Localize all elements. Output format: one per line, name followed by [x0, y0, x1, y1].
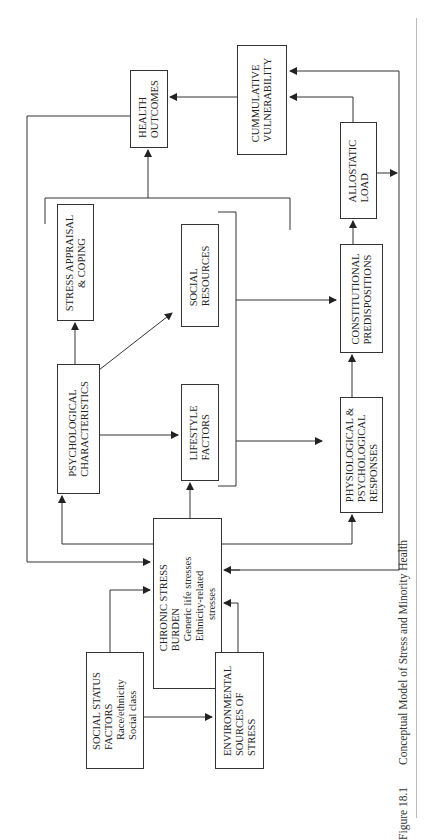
social-resources-label: SOCIAL: [188, 245, 200, 306]
arrow-allostatic-to-vulnerability: [290, 97, 353, 122]
chronic-stress-burden-label: CHRONIC STRESS: [158, 556, 170, 651]
figure-caption: Figure 18.1Conceptual Model of Stress an…: [397, 540, 409, 840]
stress-appraisal-box: STRESS APPRAISAL& COPING: [57, 204, 94, 321]
cumulative-vulnerability-label-2: VULNERABILITY: [262, 58, 274, 143]
physiological-responses-label-3: RESPONSES: [368, 408, 380, 502]
social-class-item: Social class: [127, 672, 139, 750]
allostatic-load-box: ALLOSTATICLOAD: [340, 122, 377, 219]
environmental-sources-label: ENVIRONMENTAL: [222, 665, 234, 755]
chronic-stress-burden-box: CHRONIC STRESS BURDEN Generic life stres…: [153, 518, 222, 689]
social-status-factors-label: SOCIAL STATUS: [91, 672, 103, 750]
constitutional-predispositions-label: CONSTITUTIONAL: [350, 253, 362, 344]
psychological-characteristics-label-2: CHARACTERISTICS: [79, 381, 91, 477]
constitutional-predispositions-label-2: PREDISPOSITIONS: [362, 253, 374, 344]
figure-title: Conceptual Model of Stress and Minority …: [397, 540, 409, 765]
allostatic-load-label-2: LOAD: [359, 139, 371, 202]
arrow-stress-to-physiological: [221, 515, 352, 544]
physiological-responses-box: PHYSIOLOGICAL &PSYCHOLOGICALRESPONSES: [340, 397, 383, 513]
stress-appraisal-label-2: & COPING: [76, 214, 88, 311]
lifestyle-factors-label-2: FACTORS: [200, 405, 212, 460]
arrow-stress-to-psych: [62, 496, 153, 544]
environmental-sources-label-3: STRESS: [246, 665, 258, 755]
psychological-characteristics-box: PSYCHOLOGICALCHARACTERISTICS: [57, 364, 100, 494]
constitutional-predispositions-box: CONSTITUTIONALPREDISPOSITIONS: [340, 244, 383, 353]
environmental-sources-label-2: SOURCES OF: [234, 665, 246, 755]
race-ethnicity-item: Race/ethnicity: [115, 672, 127, 750]
allostatic-load-label: ALLOSTATIC: [347, 139, 359, 202]
health-outcomes-box: HEALTHOUTCOMES: [130, 70, 168, 148]
arrow-health-feedback-to-stress: [27, 116, 150, 562]
social-resources-label-2: RESOURCES: [200, 245, 212, 306]
health-outcomes-label-2: OUTCOMES: [149, 80, 161, 138]
ethnicity-related-item-2: stresses: [206, 556, 218, 651]
chronic-stress-burden-label-2: BURDEN: [170, 556, 182, 651]
cumulative-vulnerability-label: CUMMULATIVE: [250, 58, 262, 143]
social-resources-box: SOCIALRESOURCES: [181, 224, 219, 327]
health-outcomes-label: HEALTH: [137, 80, 149, 138]
ethnicity-related-item: Ethnicity-related: [194, 556, 206, 651]
bracket-inner: [218, 212, 236, 486]
physiological-responses-label-2: PSYCHOLOGICAL: [356, 408, 368, 502]
lifestyle-factors-label: LIFESTYLE: [188, 405, 200, 460]
lifestyle-factors-box: LIFESTYLEFACTORS: [181, 384, 219, 481]
arrow-environmental-to-stress: [224, 603, 238, 652]
cumulative-vulnerability-box: CUMMULATIVEVULNERABILITY: [237, 45, 287, 155]
caption-divider: [416, 18, 417, 818]
stress-appraisal-label: STRESS APPRAISAL: [64, 214, 76, 311]
environmental-sources-box: ENVIRONMENTAL SOURCES OF STRESS: [215, 652, 264, 769]
arrow-psych-to-social: [99, 313, 172, 370]
social-status-factors-box: SOCIAL STATUS FACTORS Race/ethnicity Soc…: [86, 652, 144, 769]
physiological-responses-label: PHYSIOLOGICAL &: [344, 408, 356, 502]
generic-life-stresses-item: Generic life stresses: [182, 556, 194, 651]
social-status-factors-label-2: FACTORS: [103, 672, 115, 750]
psychological-characteristics-label: PSYCHOLOGICAL: [67, 381, 79, 477]
arrow-status-to-stress: [110, 590, 150, 652]
figure-number: Figure 18.1: [397, 787, 409, 840]
